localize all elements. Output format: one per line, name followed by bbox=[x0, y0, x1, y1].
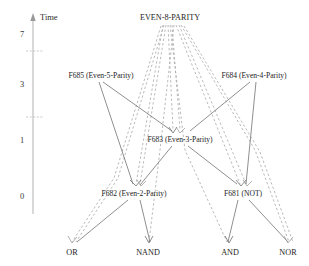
node-even-8-parity[interactable]: EVEN-8-PARITY bbox=[140, 13, 200, 22]
node-label-group: EVEN-8-PARITY F685 (Even-5-Parity) F684 … bbox=[66, 13, 297, 257]
edge-f682-to-or bbox=[77, 200, 128, 242]
node-f683[interactable]: F683 (Even-3-Parity) bbox=[147, 135, 213, 144]
axis-tick-labels: 7 3 1 0 Time bbox=[20, 12, 58, 201]
dashed-edge-group bbox=[72, 25, 293, 242]
edge-f684-to-f683 bbox=[190, 82, 250, 131]
node-f681[interactable]: F681 (NOT) bbox=[224, 189, 263, 198]
axis-tick-value-1: 1 bbox=[20, 135, 24, 145]
edge-root-to-f681-b bbox=[179, 25, 246, 184]
edge-root-to-or bbox=[76, 25, 164, 242]
time-axis-arrowhead bbox=[30, 13, 35, 21]
node-f684[interactable]: F684 (Even-4-Parity) bbox=[221, 71, 287, 80]
edge-root-to-f682 bbox=[140, 25, 166, 184]
axis-tick-value-3: 3 bbox=[20, 79, 24, 89]
solid-edge-group bbox=[77, 82, 288, 242]
edge-root-to-f681 bbox=[176, 25, 240, 184]
node-or[interactable]: OR bbox=[66, 248, 78, 257]
arrowhead-group bbox=[68, 127, 293, 243]
node-and[interactable]: AND bbox=[221, 248, 239, 257]
arrowhead-f681-b bbox=[243, 180, 252, 186]
arrowhead-or bbox=[68, 236, 77, 243]
edge-f685-to-f683 bbox=[103, 82, 172, 131]
edge-f684-to-f681 bbox=[246, 82, 256, 184]
edge-root-to-nand bbox=[149, 25, 174, 242]
edge-f681-to-nor bbox=[249, 200, 288, 242]
edge-f683-to-f682 bbox=[140, 146, 172, 185]
node-nor[interactable]: NOR bbox=[279, 248, 297, 257]
edge-f683-to-f681 bbox=[188, 146, 237, 184]
node-f682[interactable]: F682 (Even-2-Parity) bbox=[101, 189, 167, 198]
edge-f682-to-nand bbox=[140, 200, 150, 242]
node-nand[interactable]: NAND bbox=[136, 248, 160, 257]
arrowhead-f683-b bbox=[176, 127, 185, 133]
edge-root-to-and bbox=[170, 25, 227, 242]
axis-tick-value-7: 7 bbox=[20, 29, 24, 39]
axis-title-time: Time bbox=[40, 12, 58, 22]
axis-tick-value-0: 0 bbox=[20, 191, 24, 201]
node-f685[interactable]: F685 (Even-5-Parity) bbox=[68, 71, 134, 80]
diagram-page: 7 3 1 0 Time EVEN-8-PARITY F685 (Even-5-… bbox=[0, 0, 309, 266]
arrowhead-f681 bbox=[236, 180, 246, 186]
parity-hierarchy-diagram: 7 3 1 0 Time EVEN-8-PARITY F685 (Even-5-… bbox=[0, 0, 309, 266]
edge-f681-to-and bbox=[228, 200, 238, 242]
time-axis bbox=[26, 13, 44, 214]
edge-root-to-nor bbox=[181, 25, 289, 242]
